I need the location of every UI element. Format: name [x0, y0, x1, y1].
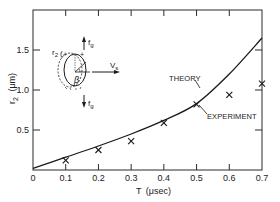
theory-curve — [33, 38, 262, 168]
experiment-x-marker — [226, 92, 232, 98]
x-tick-label: 0.6 — [223, 173, 236, 183]
experiment-label: EXPERIMENT — [207, 112, 257, 121]
fg-bottom-label: fg — [88, 99, 94, 109]
y-tick-label: 0.5 — [16, 125, 29, 135]
fg-top-label: fg — [88, 38, 94, 48]
experiment-x-marker — [128, 138, 134, 144]
x-tick-label: 0.1 — [59, 173, 72, 183]
plus-sign-right: + — [80, 51, 84, 58]
x-axis-title: T (μsec) — [136, 186, 171, 196]
inset-beta-label: β — [73, 75, 79, 85]
y-axis-tick-labels: 0.51.01.5 — [16, 45, 29, 135]
y-tick-label: 1.5 — [16, 45, 29, 55]
experiment-leader-line — [199, 105, 207, 114]
experiment-x-marker — [95, 147, 101, 153]
x-axis-ticks — [66, 10, 230, 170]
y-tick-label: 1.0 — [16, 85, 29, 95]
inset-paren: ( — [60, 49, 63, 58]
inset-droplet-diagram: + + r2 ( β fg fg Vs — [52, 36, 120, 109]
inset-r2-label: r2 — [52, 48, 59, 58]
x-tick-label: 0.3 — [125, 173, 138, 183]
experiment-markers — [63, 81, 265, 164]
x-tick-label: 0.7 — [256, 173, 269, 183]
vs-label: Vs — [110, 61, 118, 71]
plus-sign-left: + — [63, 51, 67, 58]
experiment-x-marker — [63, 157, 69, 163]
fg-down-arrowhead — [82, 102, 86, 108]
x-tick-label: 0.2 — [92, 173, 105, 183]
fg-up-arrowhead — [82, 36, 86, 42]
x-tick-label: 0.4 — [158, 173, 171, 183]
x-tick-label: 0.5 — [190, 173, 203, 183]
angle-arc — [79, 69, 80, 72]
droplet-bottom-marks — [65, 87, 81, 90]
x-axis-tick-labels: 00.10.20.30.40.50.60.7 — [30, 173, 268, 183]
x-tick-label: 0 — [30, 173, 35, 183]
plot-frame — [33, 10, 262, 170]
angle-ray — [75, 62, 86, 72]
chart: 00.10.20.30.40.50.60.7 0.51.01.5 T (μsec… — [0, 0, 280, 202]
